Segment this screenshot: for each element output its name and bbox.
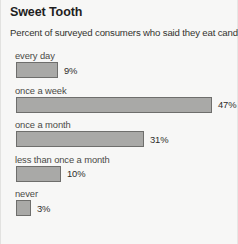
bar-category-label: never — [15, 188, 38, 199]
bar-fill — [16, 200, 31, 216]
bar-value-label: 9% — [64, 65, 77, 76]
bar-row: never 3% — [1, 188, 238, 223]
chart-subtitle: Percent of surveyed consumers who said t… — [10, 27, 238, 38]
bar-fill — [16, 131, 144, 147]
bar-line: 9% — [16, 62, 77, 78]
bar-value-label: 3% — [37, 203, 50, 214]
bar-category-label: once a week — [15, 85, 67, 96]
bar-value-label: 31% — [150, 134, 168, 145]
bar-line: 31% — [16, 131, 168, 147]
bar-row: once a month 31% — [1, 119, 238, 154]
chart-title: Sweet Tooth — [10, 5, 82, 19]
bar-row: once a week 47% — [1, 85, 238, 120]
bar-fill — [16, 166, 61, 182]
bar-category-label: less than once a month — [15, 154, 110, 165]
bar-row: every day 9% — [1, 50, 238, 85]
bar-row: less than once a month 10% — [1, 154, 238, 189]
bar-fill — [16, 97, 212, 113]
bar-line: 3% — [16, 200, 50, 216]
bar-fill — [16, 62, 58, 78]
bar-category-label: once a month — [15, 119, 71, 130]
sweet-tooth-chart-card: Sweet Tooth Percent of surveyed consumer… — [0, 0, 238, 244]
bar-value-label: 47% — [218, 99, 236, 110]
bar-line: 10% — [16, 166, 85, 182]
bar-value-label: 10% — [67, 168, 85, 179]
bar-line: 47% — [16, 97, 236, 113]
bar-category-label: every day — [15, 50, 55, 61]
bar-chart-plot-area: every day 9% once a week 47% once a mont… — [1, 50, 238, 223]
